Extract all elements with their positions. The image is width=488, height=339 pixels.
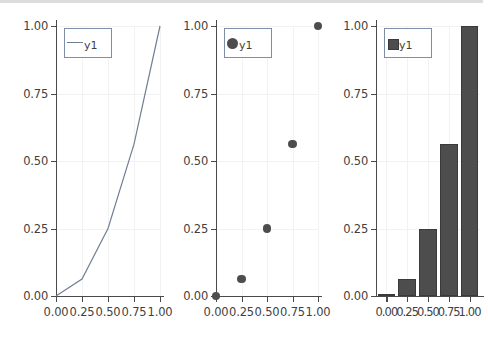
y-tick-label: 0.25 <box>322 222 368 236</box>
legend-box[interactable]: y1 <box>64 28 112 58</box>
y-tick-label: 1.00 <box>162 19 208 33</box>
y-tick-label: 0.75 <box>322 87 368 101</box>
legend-inner: y1 <box>385 29 431 57</box>
y-tick-mark <box>211 94 216 95</box>
legend-entry-label: y1 <box>399 40 413 51</box>
plot-panel-bar: 0.000.250.500.751.000.000.250.500.751.00… <box>320 0 483 339</box>
scatter-point <box>237 275 245 283</box>
x-tick-mark <box>242 297 243 302</box>
x-tick-mark <box>449 297 450 302</box>
y-axis-line <box>376 20 377 297</box>
legend-line-swatch <box>67 42 83 43</box>
bar-column <box>398 279 415 296</box>
y-tick-mark <box>211 26 216 27</box>
x-axis-line <box>216 296 322 297</box>
y-tick-mark <box>211 229 216 230</box>
gridline-horizontal <box>216 26 318 27</box>
legend-box[interactable]: y1 <box>384 28 432 58</box>
bar-column <box>419 229 436 297</box>
legend-square-swatch <box>388 39 399 50</box>
y-tick-mark <box>371 161 376 162</box>
scatter-point <box>212 292 220 300</box>
y-tick-label: 0.00 <box>322 289 368 303</box>
legend-entry-label: y1 <box>239 40 253 51</box>
bar-column <box>440 144 457 296</box>
y-tick-label: 0.25 <box>162 222 208 236</box>
y-tick-mark <box>371 26 376 27</box>
x-tick-mark <box>470 297 471 302</box>
legend-circle-swatch <box>227 38 238 49</box>
x-tick-mark <box>267 297 268 302</box>
x-tick-mark <box>293 297 294 302</box>
legend-inner: y1 <box>65 29 111 57</box>
bar-column <box>461 26 478 296</box>
legend-box[interactable]: y1 <box>224 28 272 58</box>
x-tick-mark <box>318 297 319 302</box>
x-tick-mark <box>386 297 387 302</box>
gridline-horizontal <box>216 161 318 162</box>
x-tick-mark <box>407 297 408 302</box>
y-tick-label: 0.50 <box>162 154 208 168</box>
y-tick-mark <box>371 296 376 297</box>
scatter-point <box>288 140 296 148</box>
y-axis-line <box>216 20 217 297</box>
plot-panel-scatter: 0.000.250.500.751.000.000.250.500.751.00… <box>160 0 322 339</box>
legend-inner: y1 <box>225 29 271 57</box>
x-tick-label: 1.00 <box>448 305 488 319</box>
gridline-vertical <box>318 26 319 296</box>
legend-entry-label: y1 <box>84 40 98 51</box>
y-tick-label: 0.75 <box>162 87 208 101</box>
y-tick-mark <box>371 229 376 230</box>
y-tick-mark <box>371 94 376 95</box>
scatter-point <box>263 224 271 232</box>
gridline-horizontal <box>216 94 318 95</box>
bar-column <box>378 294 395 296</box>
x-tick-mark <box>428 297 429 302</box>
y-tick-label: 0.00 <box>162 289 208 303</box>
y-tick-label: 1.00 <box>322 19 368 33</box>
y-tick-mark <box>211 161 216 162</box>
plot-panel-line: 0.000.250.500.751.000.000.250.500.751.00… <box>0 0 164 339</box>
y-tick-label: 0.50 <box>322 154 368 168</box>
